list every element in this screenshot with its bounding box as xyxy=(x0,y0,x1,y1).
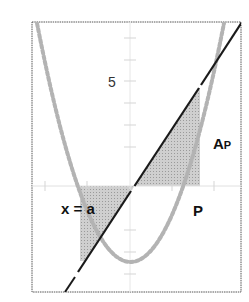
vertical-line-label: x = a xyxy=(61,201,95,216)
area-label-subscript: P xyxy=(224,139,231,151)
y-tick-label-5: 5 xyxy=(108,75,116,89)
plot-frame xyxy=(32,22,241,292)
area-label: AP xyxy=(213,136,231,151)
diagram: 5 x = a AP P xyxy=(0,0,249,302)
area-label-main: A xyxy=(213,135,224,152)
curve-label: P xyxy=(193,203,203,218)
plot-canvas xyxy=(0,0,249,302)
